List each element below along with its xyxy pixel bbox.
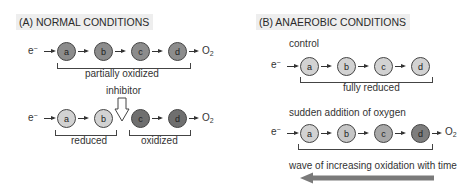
arrow [189, 51, 197, 52]
fully-reduced-label: fully reduced [343, 82, 400, 93]
arrow [78, 51, 87, 52]
arrow [115, 51, 124, 52]
arrow [152, 51, 161, 52]
carrier-c: c [374, 57, 393, 76]
arrow [44, 51, 54, 52]
arrow [78, 118, 87, 119]
arrow [395, 133, 404, 134]
wave-arrow-icon [300, 172, 434, 184]
carrier-d: d [411, 57, 430, 76]
arrow [44, 118, 54, 119]
carrier-d: d [411, 124, 430, 143]
carrier-d: d [168, 42, 187, 61]
carrier-b: b [94, 42, 113, 61]
reduced-label: reduced [71, 135, 107, 146]
arrow [287, 133, 297, 134]
carrier-b: b [337, 124, 356, 143]
panel-a-title: (A) NORMAL CONDITIONS [16, 14, 153, 30]
arrow [358, 133, 367, 134]
oxygen-subscript: 2 [210, 50, 214, 57]
oxygen-symbol: O [202, 45, 210, 56]
carrier-c: c [131, 109, 150, 128]
arrow [321, 66, 330, 67]
oxygen-output-label: O2 [445, 126, 457, 138]
inhibitor-arrow-icon [114, 97, 130, 123]
carrier-c: c [374, 124, 393, 143]
oxygen-addition-caption: sudden addition of oxygen [289, 107, 406, 118]
carrier-a: a [57, 42, 76, 61]
carrier-b: b [94, 109, 113, 128]
carrier-a: a [300, 124, 319, 143]
carrier-b: b [337, 57, 356, 76]
carrier-a: a [57, 109, 76, 128]
wave-label: wave of increasing oxidation with time [289, 160, 457, 171]
carrier-d: d [168, 109, 187, 128]
arrow [358, 66, 367, 67]
oxygen-output-label: O2 [202, 45, 214, 57]
oxygen-output-label: O2 [202, 112, 214, 124]
arrow [432, 133, 440, 134]
bracket [298, 144, 433, 150]
carrier-c: c [131, 42, 150, 61]
oxidized-label: oxidized [141, 135, 178, 146]
carrier-a: a [300, 57, 319, 76]
electron-input-label: e− [28, 45, 38, 56]
arrow [321, 133, 330, 134]
electron-input-label: e− [271, 59, 281, 70]
electron-input-label: e− [271, 126, 281, 137]
partially-oxidized-label: partially oxidized [85, 68, 159, 79]
arrow [395, 66, 404, 67]
arrow [287, 66, 297, 67]
oxygen-subscript: 2 [210, 117, 214, 124]
oxygen-subscript: 2 [453, 131, 457, 138]
electron-input-label: e− [28, 112, 38, 123]
oxygen-symbol: O [445, 126, 453, 137]
control-caption: control [289, 38, 319, 49]
panel-b-title: (B) ANAEROBIC CONDITIONS [256, 14, 410, 30]
arrow [189, 118, 197, 119]
oxygen-symbol: O [202, 112, 210, 123]
inhibitor-label: inhibitor [106, 85, 141, 96]
arrow [152, 118, 161, 119]
